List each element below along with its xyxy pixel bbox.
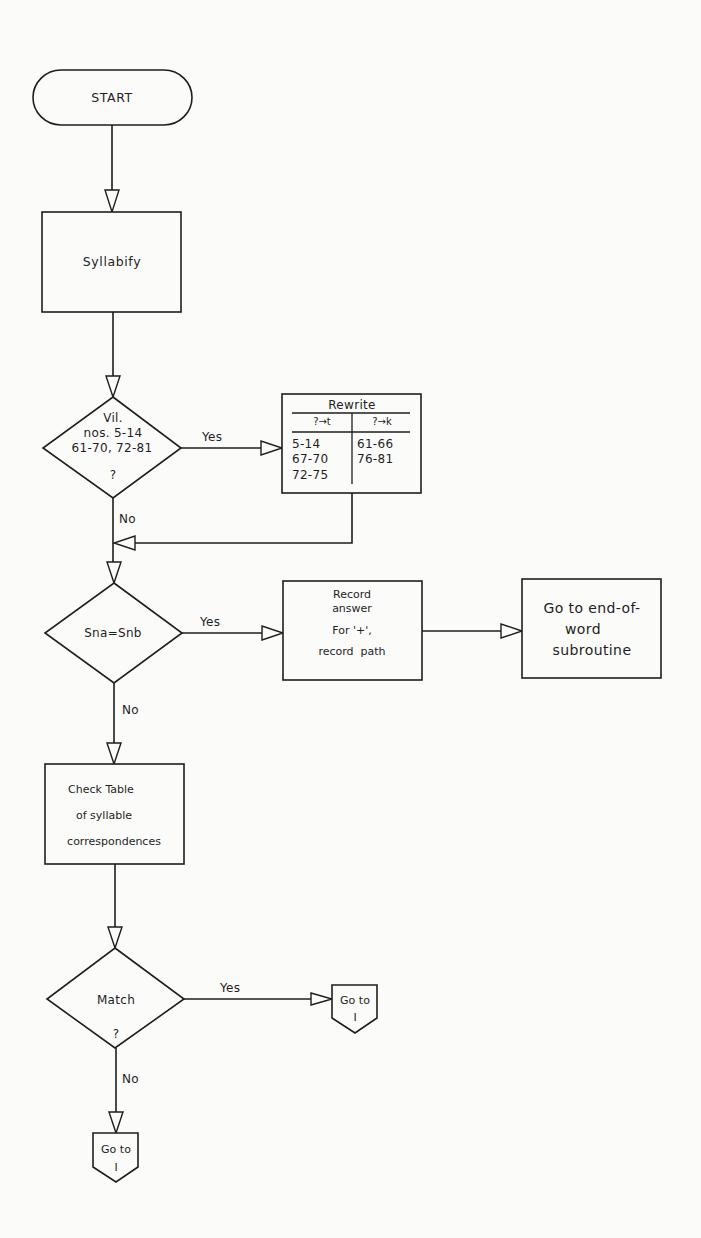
rewrite-table-box: Rewrite ?→t ?→k 5-14 61-66 67-70 76-81 7… (282, 394, 421, 493)
arrowhead-icon (107, 562, 121, 583)
arrowhead-icon (109, 1112, 123, 1133)
syllabify-box: Syllabify (42, 212, 181, 312)
edge-check-match (108, 864, 122, 948)
edge-match-no: No (109, 1048, 139, 1133)
sna-no-label: No (122, 703, 139, 717)
check-line-3: correspondences (67, 835, 161, 848)
goto-connector-no: Go to I (93, 1133, 138, 1182)
arrowhead-icon (261, 441, 282, 455)
arrowhead-icon (262, 626, 283, 640)
match-no-label: No (122, 1072, 139, 1086)
start-terminator: START (33, 70, 192, 125)
end-of-word-box: Go to end-of- word subroutine (522, 579, 661, 678)
arrowhead-icon (105, 190, 119, 212)
syllabify-label: Syllabify (83, 254, 141, 269)
rewrite-title: Rewrite (328, 398, 375, 412)
arrowhead-icon (108, 927, 122, 948)
check-table-box: Check Table of syllable correspondences (45, 764, 184, 864)
village-line-4: ? (110, 468, 117, 482)
edge-sna-record: Yes (182, 615, 283, 640)
check-line-1: Check Table (68, 783, 134, 796)
arrowhead-icon (311, 993, 332, 1005)
edge-syllabify-village (106, 312, 120, 397)
record-line-2: answer (332, 602, 372, 615)
rewrite-cell: 67-70 (292, 452, 328, 466)
sna-yes-label: Yes (199, 615, 220, 629)
sna-snb-decision: Sna=Snb (45, 583, 182, 683)
edge-village-rewrite: Yes (181, 430, 282, 455)
goto-connector-yes: Go to I (332, 985, 377, 1033)
village-decision: Vil. nos. 5-14 61-70, 72-81 ? (43, 397, 181, 498)
edge-start-syllabify (105, 125, 119, 212)
village-yes-label: Yes (201, 430, 222, 444)
endword-line-3: subroutine (553, 642, 632, 658)
goto-no-line-1: Go to (101, 1143, 131, 1156)
endword-line-2: word (565, 621, 601, 637)
match-label: Match (97, 993, 135, 1007)
match-decision: Match ? (47, 948, 184, 1048)
edge-rewrite-return (114, 493, 352, 550)
record-line-4: record path (318, 645, 385, 658)
match-question: ? (113, 1027, 120, 1041)
arrowhead-icon (107, 743, 121, 764)
sna-snb-label: Sna=Snb (84, 626, 142, 640)
rewrite-cell: 61-66 (357, 437, 393, 451)
village-no-label: No (119, 512, 136, 526)
goto-yes-line-2: I (353, 1011, 356, 1024)
arrowhead-icon (114, 536, 135, 550)
check-line-2: of syllable (76, 809, 132, 822)
edge-match-yes: Yes (184, 981, 332, 1005)
record-answer-box: Record answer For '+', record path (283, 581, 422, 680)
flowchart-canvas: START Syllabify Vil. nos. 5-14 61-70, 72… (0, 0, 701, 1238)
village-line-2: nos. 5-14 (84, 426, 143, 440)
match-yes-label: Yes (219, 981, 240, 995)
rewrite-cell: 72-75 (292, 468, 328, 482)
record-line-1: Record (333, 588, 371, 601)
arrowhead-icon (106, 376, 120, 397)
rewrite-col-k: ?→k (372, 416, 392, 427)
edge-record-endword (422, 624, 522, 638)
edge-sna-check: No (107, 683, 139, 764)
village-line-3: 61-70, 72-81 (72, 441, 153, 455)
rewrite-col-t: ?→t (313, 416, 331, 427)
goto-yes-line-1: Go to (340, 994, 370, 1007)
rewrite-cell: 76-81 (357, 452, 393, 466)
start-label: START (91, 90, 133, 105)
village-line-1: Vil. (103, 411, 123, 425)
endword-line-1: Go to end-of- (543, 600, 640, 616)
arrowhead-icon (501, 624, 522, 638)
goto-no-line-2: I (114, 1161, 117, 1174)
record-line-3: For '+', (332, 624, 371, 637)
rewrite-cell: 5-14 (292, 437, 320, 451)
